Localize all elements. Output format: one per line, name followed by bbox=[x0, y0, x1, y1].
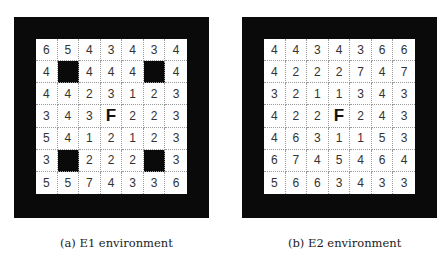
grid-cell: 2 bbox=[144, 128, 166, 150]
grid-cell: 1 bbox=[329, 83, 351, 105]
grid-cell: 4 bbox=[393, 150, 415, 172]
grid-cell: 4 bbox=[36, 83, 58, 105]
grid-cell: 3 bbox=[264, 83, 286, 105]
grid-cell: 4 bbox=[101, 61, 123, 83]
grid-cell: 6 bbox=[372, 150, 394, 172]
grid-cell: 4 bbox=[286, 39, 308, 61]
grid-cell: 3 bbox=[165, 83, 187, 105]
grid-cell: 3 bbox=[165, 150, 187, 172]
grid-cell: 4 bbox=[165, 61, 187, 83]
grid-cell: 6 bbox=[286, 128, 308, 150]
grid-cell: 1 bbox=[307, 83, 329, 105]
grid-cell: 4 bbox=[372, 105, 394, 127]
grid-cell: 2 bbox=[101, 128, 123, 150]
grid-cell: 4 bbox=[350, 150, 372, 172]
obstacle-cell bbox=[58, 150, 80, 172]
grid-cell: 4 bbox=[101, 172, 123, 194]
grid-cell: 5 bbox=[36, 128, 58, 150]
grid-cell: 5 bbox=[58, 172, 80, 194]
grid-cell: 3 bbox=[122, 172, 144, 194]
grid-cell: 1 bbox=[122, 128, 144, 150]
grid-cell: 3 bbox=[350, 39, 372, 61]
grid-cell: 2 bbox=[122, 150, 144, 172]
grid-cell: 2 bbox=[79, 83, 101, 105]
e1-caption: (a) E1 environment bbox=[60, 236, 173, 250]
grid-cell: 3 bbox=[307, 128, 329, 150]
grid-cell: 1 bbox=[122, 83, 144, 105]
grid-cell: 4 bbox=[58, 128, 80, 150]
grid-cell: 4 bbox=[58, 105, 80, 127]
grid-cell: 6 bbox=[264, 150, 286, 172]
grid-cell: 1 bbox=[79, 128, 101, 150]
e2-grid: 443436642227473211343422F243463115367454… bbox=[264, 39, 415, 194]
grid-cell: 2 bbox=[329, 61, 351, 83]
grid-cell: 6 bbox=[372, 39, 394, 61]
grid-cell: 3 bbox=[144, 39, 166, 61]
grid-cell: 4 bbox=[122, 61, 144, 83]
grid-cell: 4 bbox=[165, 39, 187, 61]
grid-cell: 7 bbox=[393, 61, 415, 83]
grid-cell: 6 bbox=[286, 172, 308, 194]
grid-cell: 4 bbox=[36, 61, 58, 83]
grid-cell: 4 bbox=[350, 172, 372, 194]
obstacle-cell bbox=[144, 150, 166, 172]
grid-cell: 6 bbox=[165, 172, 187, 194]
grid-cell: 4 bbox=[264, 39, 286, 61]
grid-cell: 4 bbox=[58, 83, 80, 105]
grid-cell: 7 bbox=[350, 61, 372, 83]
grid-cell: 1 bbox=[350, 128, 372, 150]
grid-cell: 2 bbox=[144, 83, 166, 105]
e2-environment-panel: 443436642227473211343422F243463115367454… bbox=[242, 17, 437, 218]
grid-cell: 2 bbox=[307, 61, 329, 83]
grid-cell: 2 bbox=[286, 61, 308, 83]
e1-grid: 6543434444444423123343F22354121233222355… bbox=[36, 39, 187, 194]
grid-cell: 4 bbox=[264, 61, 286, 83]
grid-cell: 4 bbox=[264, 128, 286, 150]
grid-cell: 2 bbox=[101, 150, 123, 172]
grid-cell: 3 bbox=[101, 83, 123, 105]
grid-cell: 3 bbox=[350, 83, 372, 105]
grid-cell: 3 bbox=[393, 172, 415, 194]
grid-cell: 4 bbox=[79, 61, 101, 83]
grid-cell: 4 bbox=[372, 83, 394, 105]
grid-cell: 3 bbox=[165, 105, 187, 127]
grid-cell: 3 bbox=[329, 172, 351, 194]
grid-cell: 3 bbox=[393, 105, 415, 127]
grid-cell: 4 bbox=[307, 150, 329, 172]
grid-cell: 4 bbox=[79, 39, 101, 61]
grid-cell: 2 bbox=[144, 105, 166, 127]
grid-cell: 3 bbox=[165, 128, 187, 150]
grid-cell: 2 bbox=[122, 105, 144, 127]
grid-cell: 3 bbox=[372, 172, 394, 194]
grid-cell: 2 bbox=[286, 105, 308, 127]
grid-cell: 2 bbox=[350, 105, 372, 127]
grid-cell: 5 bbox=[264, 172, 286, 194]
e1-environment-panel: 6543434444444423123343F22354121233222355… bbox=[14, 17, 209, 218]
grid-cell: 4 bbox=[329, 39, 351, 61]
grid-cell: 7 bbox=[286, 150, 308, 172]
grid-cell: 5 bbox=[372, 128, 394, 150]
grid-cell: 3 bbox=[144, 172, 166, 194]
grid-cell: 3 bbox=[307, 39, 329, 61]
obstacle-cell bbox=[58, 61, 80, 83]
grid-cell: 4 bbox=[122, 39, 144, 61]
grid-cell: 3 bbox=[36, 150, 58, 172]
grid-cell: 6 bbox=[307, 172, 329, 194]
grid-cell: 2 bbox=[79, 150, 101, 172]
goal-cell: F bbox=[101, 105, 123, 127]
grid-cell: 5 bbox=[329, 150, 351, 172]
grid-cell: 6 bbox=[36, 39, 58, 61]
grid-cell: 1 bbox=[329, 128, 351, 150]
grid-cell: 7 bbox=[79, 172, 101, 194]
goal-cell: F bbox=[329, 105, 351, 127]
grid-cell: 5 bbox=[36, 172, 58, 194]
grid-cell: 3 bbox=[393, 83, 415, 105]
grid-cell: 4 bbox=[372, 61, 394, 83]
e2-caption: (b) E2 environment bbox=[288, 236, 401, 250]
grid-cell: 3 bbox=[79, 105, 101, 127]
grid-cell: 6 bbox=[393, 39, 415, 61]
grid-cell: 2 bbox=[307, 105, 329, 127]
obstacle-cell bbox=[144, 61, 166, 83]
grid-cell: 2 bbox=[286, 83, 308, 105]
grid-cell: 5 bbox=[58, 39, 80, 61]
